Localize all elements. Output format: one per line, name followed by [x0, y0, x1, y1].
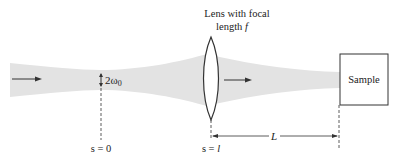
distance-label: L — [270, 130, 277, 142]
sample-label: Sample — [348, 74, 380, 85]
position-label-s0: s = 0 — [91, 143, 112, 154]
beam-focusing-diagram: 2ω0 Lens with focal length f Sample L s … — [0, 0, 400, 159]
lens-label-line1: Lens with focal — [204, 8, 269, 19]
lens-label-line2: length f — [216, 21, 250, 32]
lens-icon — [204, 37, 219, 120]
position-label-sl: s = l — [202, 143, 220, 154]
